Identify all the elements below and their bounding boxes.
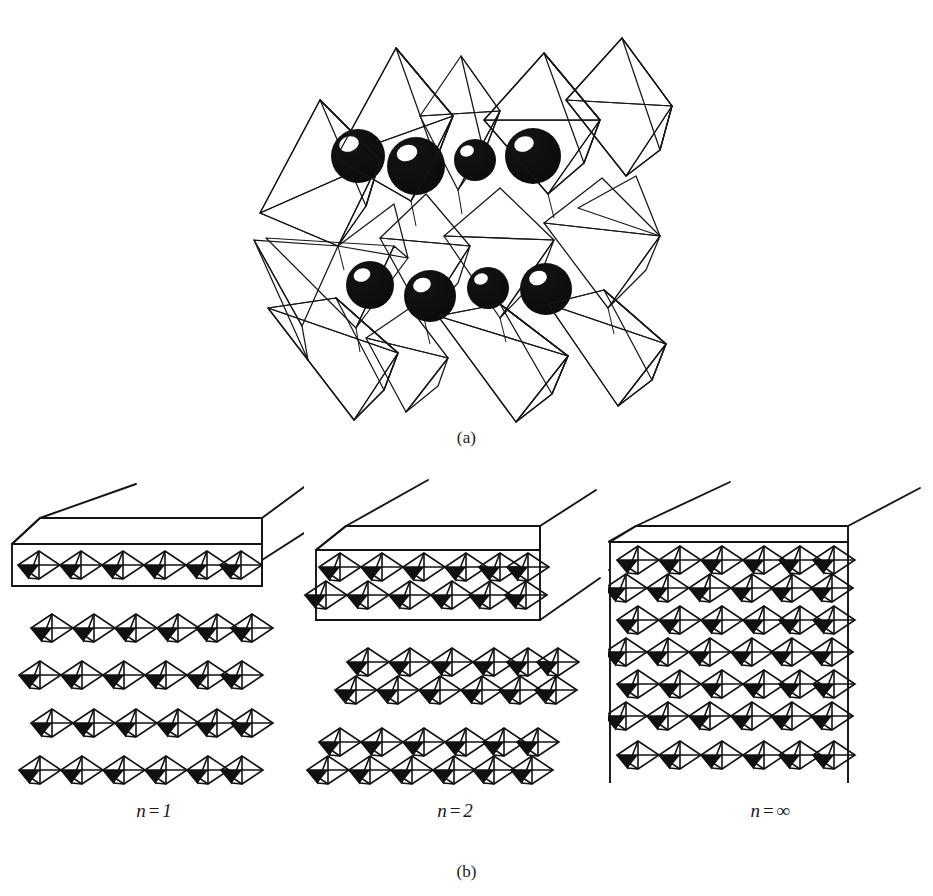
caption-equals: = [447,800,464,821]
n1-free-slab [31,614,273,642]
cation-sphere [505,128,561,184]
cation-sphere [467,267,509,309]
n2-slab-row [335,676,577,704]
caption-n-value: ∞ [777,800,791,821]
n1-slab-row [18,551,262,579]
ninf-lattice [608,546,855,769]
ninf-row [617,546,855,574]
figure-root: (a) [0,0,933,896]
panel-a-label: (a) [0,428,933,448]
cation-spheres-lower [346,261,572,322]
ninf-row [608,574,853,602]
column-n-1: n=1 [4,470,304,795]
ninf-row [608,638,853,666]
caption-n-value: 1 [162,800,172,821]
caption-n-symbol: n [136,800,146,821]
column-n-infinity: n=∞ [608,470,933,795]
n1-free-slab [19,661,263,689]
panel-b-label: (b) [0,862,933,882]
cation-sphere [331,129,385,183]
panel-a: (a) [0,0,933,470]
column-n-2: n=2 [300,470,610,795]
n1-free-slab [19,756,263,784]
caption-n-1: n=1 [4,800,304,822]
cation-sphere [520,263,572,315]
n2-free-slab [307,728,559,784]
panel-b: n=1 [0,470,933,896]
ninf-row [608,702,853,730]
n2-boxed-slab [305,480,600,620]
caption-n-symbol: n [751,800,761,821]
n2-slab-row [347,648,579,676]
ninf-row [617,741,855,769]
n1-boxed-slab [12,484,304,586]
caption-n-infinity: n=∞ [608,800,933,822]
n2-slab-row [305,581,547,609]
cation-sphere [346,261,394,309]
ninf-structure-drawing [608,470,933,795]
caption-equals: = [760,800,777,821]
n2-structure-drawing [300,470,610,795]
caption-n-symbol: n [437,800,447,821]
n2-slab-row [307,756,553,784]
caption-n-value: 2 [463,800,473,821]
caption-equals: = [146,800,163,821]
n1-structure-drawing [4,470,304,795]
n2-slab-row [319,553,549,581]
cation-spheres-upper [331,128,561,195]
n2-free-slab [335,648,579,704]
panel-a-structure-drawing [248,8,678,423]
cation-sphere [387,137,445,195]
octahedra-layer-middle [254,176,660,360]
n2-slab-row [319,728,559,756]
ninf-row [617,670,855,698]
cation-sphere [454,139,496,181]
n1-free-slab [31,709,273,737]
ninf-row [617,606,855,634]
caption-n-2: n=2 [300,800,610,822]
